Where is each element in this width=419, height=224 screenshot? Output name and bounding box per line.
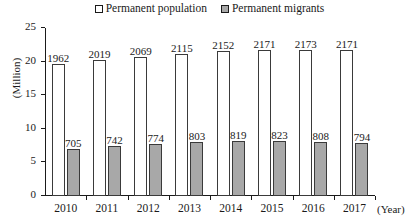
legend-item-permanent-migrants: Permanent migrants [221,2,324,15]
bar-value-label: 2152 [212,39,234,51]
bar-value-label: 705 [65,137,82,149]
bar-value-label: 823 [271,129,288,141]
y-axis-tick-label: 5 [31,154,37,167]
y-axis-tick-label: 20 [25,54,36,67]
bar-value-label: 2019 [88,48,110,60]
legend-label-permanent-population: Permanent population [106,2,207,15]
bar-permanent-population[interactable]: 2115 [175,54,188,196]
y-axis-tick-label: 15 [25,87,36,100]
x-axis-category-label: 2010 [54,202,77,215]
legend-label-permanent-migrants: Permanent migrants [232,2,324,15]
bar-group: 21717942017 [340,28,368,196]
bar-group: 21158032013 [175,28,203,196]
bar-value-label: 803 [189,130,206,142]
bar-permanent-migrants[interactable]: 705 [67,149,80,196]
x-axis-category-label: 2017 [343,202,366,215]
bar-permanent-population[interactable]: 2173 [299,50,312,196]
x-axis-tick [128,196,129,200]
x-axis-tick [86,196,87,200]
bar-value-label: 1962 [47,52,69,64]
x-axis-tick [210,196,211,200]
bar-permanent-migrants[interactable]: 742 [108,146,121,196]
x-axis-tick [375,196,376,200]
y-axis-tick: 5 [41,161,45,162]
chart-legend: Permanent population Permanent migrants [0,2,419,15]
y-axis-tick-label: 0 [31,188,37,201]
y-axis-tick-label: 25 [25,20,36,33]
bar-permanent-population[interactable]: 2069 [134,57,147,196]
x-axis-tick [251,196,252,200]
bar-value-label: 2171 [336,38,358,50]
y-axis-tick: 10 [41,128,45,129]
bar-group: 21528192014 [217,28,245,196]
x-axis-category-label: 2011 [96,202,119,215]
bar-group: 20197422011 [93,28,121,196]
bar-chart: Permanent population Permanent migrants … [0,0,419,224]
bar-permanent-population[interactable]: 2171 [258,50,271,196]
x-axis-category-label: 2012 [137,202,160,215]
bar-value-label: 2173 [295,38,317,50]
x-axis-tick [293,196,294,200]
bar-permanent-population[interactable]: 2171 [340,50,353,196]
bar-permanent-migrants[interactable]: 774 [149,144,162,196]
y-axis-tick: 25 [41,27,45,28]
bar-group: 20697742012 [134,28,162,196]
bar-permanent-population[interactable]: 2152 [217,51,230,196]
x-axis-tick [169,196,170,200]
bar-permanent-population[interactable]: 2019 [93,60,106,196]
bar-value-label: 794 [354,131,371,143]
x-axis-category-label: 2016 [302,202,325,215]
gray-square-icon [221,5,229,13]
bar-group: 21738082016 [299,28,327,196]
bar-permanent-migrants[interactable]: 808 [314,142,327,196]
y-axis-tick: 20 [41,61,45,62]
bar-permanent-migrants[interactable]: 794 [355,143,368,196]
bar-permanent-migrants[interactable]: 823 [273,141,286,196]
bar-permanent-population[interactable]: 1962 [52,64,65,196]
white-square-icon [95,5,103,13]
x-axis-title: (Year) [377,203,405,215]
bar-value-label: 742 [106,134,123,146]
legend-item-permanent-population: Permanent population [95,2,207,15]
bar-value-label: 819 [230,129,247,141]
bar-value-label: 2115 [171,42,193,54]
x-axis-category-label: 2015 [260,202,283,215]
y-axis-tick: 15 [41,94,45,95]
bar-permanent-migrants[interactable]: 819 [232,141,245,196]
bar-value-label: 808 [312,130,329,142]
y-axis-line [45,28,46,196]
bar-value-label: 774 [147,132,164,144]
x-axis-category-label: 2013 [178,202,201,215]
y-axis-tick: 0 [41,195,45,196]
bar-value-label: 2171 [253,38,275,50]
plot-area: 0510152025 19627052010201974220112069774… [45,28,375,196]
x-axis-category-label: 2014 [219,202,242,215]
bar-group: 21718232015 [258,28,286,196]
bar-permanent-migrants[interactable]: 803 [190,142,203,196]
y-axis-tick-label: 10 [25,121,36,134]
y-axis-title: (Million) [10,48,22,108]
bar-group: 19627052010 [52,28,80,196]
bar-value-label: 2069 [130,45,152,57]
x-axis-tick [334,196,335,200]
